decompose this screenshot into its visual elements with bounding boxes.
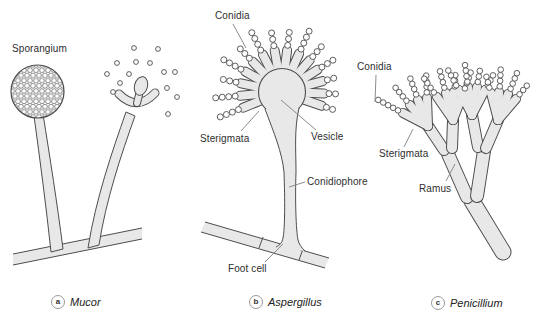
caption-penicillium: c Penicillium [431, 296, 503, 310]
caption-name-penicillium: Penicillium [450, 297, 503, 309]
label-sterigmata-c: Sterigmata [379, 148, 428, 159]
burst-sporangium-shape [119, 75, 155, 103]
conidiophore-shape [265, 108, 305, 251]
penicillium-stem-shape [472, 201, 503, 252]
label-ramus: Ramus [419, 183, 451, 194]
aspergillus-illustration [201, 28, 339, 268]
label-conidia-b: Conidia [215, 10, 250, 21]
caption-name-aspergillus: Aspergillus [268, 296, 322, 308]
mucor-left-stalk-shape [34, 114, 63, 252]
label-sterigmata-b: Sterigmata [200, 133, 249, 144]
mucor-hypha-shape [13, 228, 142, 265]
caption-mucor: a Mucor [51, 295, 101, 309]
conidia-b-leader-line [233, 24, 246, 48]
sterigmata-b-leader-line [241, 111, 259, 131]
label-vesicle: Vesicle [311, 131, 343, 142]
aspergillus-hypha-shape [201, 222, 329, 268]
illustration-canvas [0, 0, 549, 322]
mucor-right-stalk-shape [88, 112, 135, 248]
label-sporangium: Sporangium [12, 43, 67, 54]
caption-letter-c: c [431, 296, 445, 310]
caption-letter-a: a [51, 295, 65, 309]
caption-letter-b: b [249, 295, 263, 309]
label-conidia-c: Conidia [357, 61, 392, 72]
sporangium-shape [11, 65, 64, 118]
mucor-illustration [11, 46, 179, 265]
label-foot-cell: Foot cell [228, 263, 267, 274]
caption-name-mucor: Mucor [70, 296, 101, 308]
ramus-shapes [448, 151, 484, 197]
label-conidiophore: Conidiophore [307, 176, 368, 187]
fungi-diagram: Sporangium Conidia Sterigmata Vesicle Co… [0, 0, 549, 322]
metula-shapes [428, 115, 498, 150]
sterigmata-shapes-c [403, 87, 516, 126]
caption-aspergillus: b Aspergillus [249, 295, 322, 309]
sterigmata-c-leader-line [404, 129, 413, 147]
